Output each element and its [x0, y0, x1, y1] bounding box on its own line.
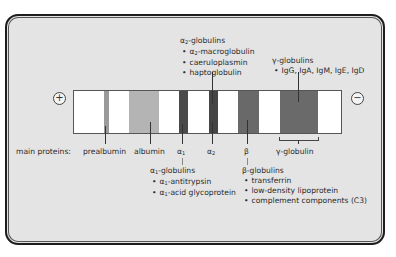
label-beta: β	[244, 147, 249, 156]
band-albumin	[129, 91, 159, 133]
list-item: low-density lipoprotein	[242, 186, 367, 196]
list-item: α1-acid glycoprotein	[150, 188, 236, 199]
list-item: α1-antitrypsin	[150, 177, 236, 188]
cathode-minus-icon: −	[351, 92, 364, 105]
list-item: α2-macroglobulin	[180, 47, 255, 58]
pointer-alpha1	[182, 124, 183, 144]
alpha1-globulins-title: α1-globulins	[150, 166, 236, 177]
list-item: caeruloplasmin	[180, 58, 255, 68]
label-alpha1: α1	[177, 147, 185, 156]
band-beta	[238, 91, 259, 133]
list-item: haptoglobulin	[180, 68, 255, 78]
electrophoresis-strip	[73, 90, 342, 134]
pointer-prealbumin	[105, 126, 106, 144]
gamma-globulins-title: γ-globulins	[272, 56, 364, 66]
band-gamma	[280, 91, 318, 133]
beta-globulins-title: β-globulins	[242, 166, 367, 176]
list-item: complement components (C3)	[242, 196, 367, 206]
pointer-alpha1-bottom	[182, 158, 183, 165]
beta-globulins-list: β-globulins transferrin low-density lipo…	[242, 166, 367, 206]
alpha2-globulins-list: α2-globulins α2-macroglobulin caerulopla…	[180, 36, 255, 78]
band-alpha2	[209, 91, 218, 133]
pointer-albumin	[150, 122, 151, 144]
gamma-bracket-stem	[298, 140, 299, 144]
label-prealbumin: prealbumin	[83, 147, 126, 156]
pointer-beta	[247, 120, 248, 144]
list-item: transferrin	[242, 176, 367, 186]
pointer-beta-bottom	[247, 158, 248, 165]
label-albumin: albumin	[134, 147, 165, 156]
gamma-globulins-list: γ-globulins IgG, IgA, IgM, IgE, IgD	[272, 56, 364, 76]
anode-plus-icon: +	[53, 92, 66, 105]
main-proteins-label: main proteins:	[16, 147, 71, 156]
alpha1-globulins-list: α1-globulins α1-antitrypsin α1-acid glyc…	[150, 166, 236, 199]
gamma-bracket	[279, 137, 319, 141]
label-alpha2: α2	[207, 147, 215, 156]
band-alpha1	[179, 91, 188, 133]
pointer-alpha2	[212, 122, 213, 144]
pointer-gamma-top	[298, 72, 299, 102]
alpha2-globulins-title: α2-globulins	[180, 36, 255, 47]
list-item: IgG, IgA, IgM, IgE, IgD	[272, 66, 364, 76]
label-gamma: γ-globulin	[276, 147, 313, 156]
